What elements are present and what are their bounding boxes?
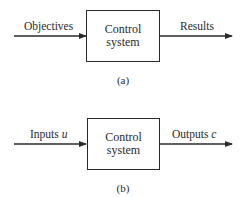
output-label-a: Results bbox=[180, 20, 214, 32]
output-label-a-text: Results bbox=[180, 20, 214, 32]
output-label-b-text: Outputs bbox=[172, 128, 211, 140]
box-b-line2: system bbox=[107, 144, 140, 157]
caption-b: (b) bbox=[103, 182, 143, 194]
input-var-b: u bbox=[62, 128, 68, 140]
box-a-line2: system bbox=[106, 36, 139, 49]
caption-a: (a) bbox=[103, 74, 143, 86]
output-label-b: Outputs c bbox=[172, 128, 216, 140]
control-system-box-a: Control system bbox=[86, 10, 160, 62]
input-label-b: Inputs u bbox=[30, 128, 67, 140]
output-var-b: c bbox=[211, 128, 216, 140]
control-system-box-b: Control system bbox=[87, 118, 160, 170]
input-label-a: Objectives bbox=[24, 20, 73, 32]
input-label-a-text: Objectives bbox=[24, 20, 73, 32]
input-label-b-text: Inputs bbox=[30, 128, 62, 140]
